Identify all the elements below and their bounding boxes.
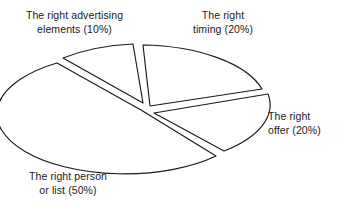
pie-slice-timing[interactable] bbox=[143, 45, 262, 106]
pie-label-offer: The right offer (20%) bbox=[268, 110, 346, 137]
pie-chart-figure: The right advertising elements (10%) The… bbox=[0, 0, 349, 208]
pie-label-timing-line2: timing (20%) bbox=[163, 23, 283, 37]
pie-label-advertising-line2: elements (10%) bbox=[7, 23, 142, 37]
pie-label-offer-line2: offer (20%) bbox=[268, 124, 346, 138]
pie-label-person-line1: The right person bbox=[8, 170, 128, 184]
pie-label-advertising-line1: The right advertising bbox=[7, 9, 142, 23]
pie-label-offer-line1: The right bbox=[268, 110, 346, 124]
pie-label-timing: The right timing (20%) bbox=[163, 9, 283, 36]
pie-label-advertising: The right advertising elements (10%) bbox=[7, 9, 142, 36]
pie-label-timing-line1: The right bbox=[163, 9, 283, 23]
pie-label-person: The right person or list (50%) bbox=[8, 170, 128, 197]
pie-label-person-line2: or list (50%) bbox=[8, 184, 128, 198]
